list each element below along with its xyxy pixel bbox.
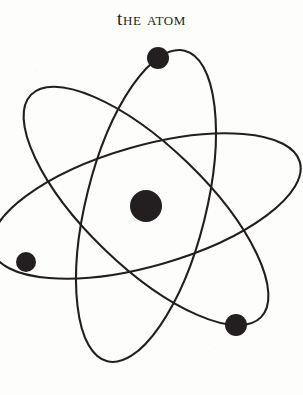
nucleus <box>130 190 162 222</box>
electron-top <box>147 47 169 69</box>
electron-left <box>16 252 36 272</box>
atom-figure: The Atom <box>0 0 303 395</box>
electron-lower-right <box>225 314 247 336</box>
atom-diagram <box>0 0 303 395</box>
